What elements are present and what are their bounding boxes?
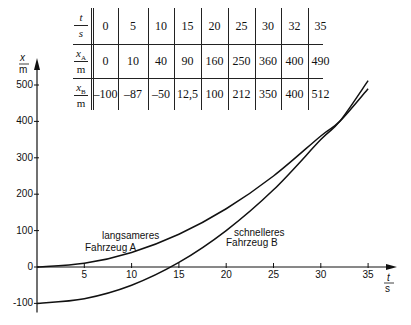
curve-vehicle-a [37,89,368,267]
y-tick-label: 100 [0,226,33,236]
y-axis-label-den: m [19,65,27,75]
y-tick-label: 200 [0,189,33,199]
label-vehicle-a-line2: Fahrzeug A [85,243,136,253]
y-tick-label: 300 [0,153,33,163]
y-tick-label: 0 [0,262,33,272]
x-tick-label: 25 [268,270,280,280]
x-tick-label: 35 [362,270,374,280]
y-axis-label-num: x [20,53,25,63]
label-vehicle-b-line2: Fahrzeug B [226,238,278,248]
x-axis-label-den: s [385,284,390,294]
x-tick-label: 5 [78,270,90,280]
x-axis-arrow-icon [386,264,397,270]
x-axis-label-num: t [387,273,390,283]
chart-plot [0,0,411,325]
y-axis-arrow-icon [34,58,40,70]
label-vehicle-a-line1: langsameres [102,231,159,241]
y-tick-label: 500 [0,80,33,90]
x-tick-label: 30 [315,270,327,280]
y-tick-label: 400 [0,116,33,126]
x-tick-label: 20 [220,270,232,280]
x-tick-label: 15 [173,270,185,280]
x-tick-label: 10 [126,270,138,280]
y-tick-label: -100 [0,298,33,308]
